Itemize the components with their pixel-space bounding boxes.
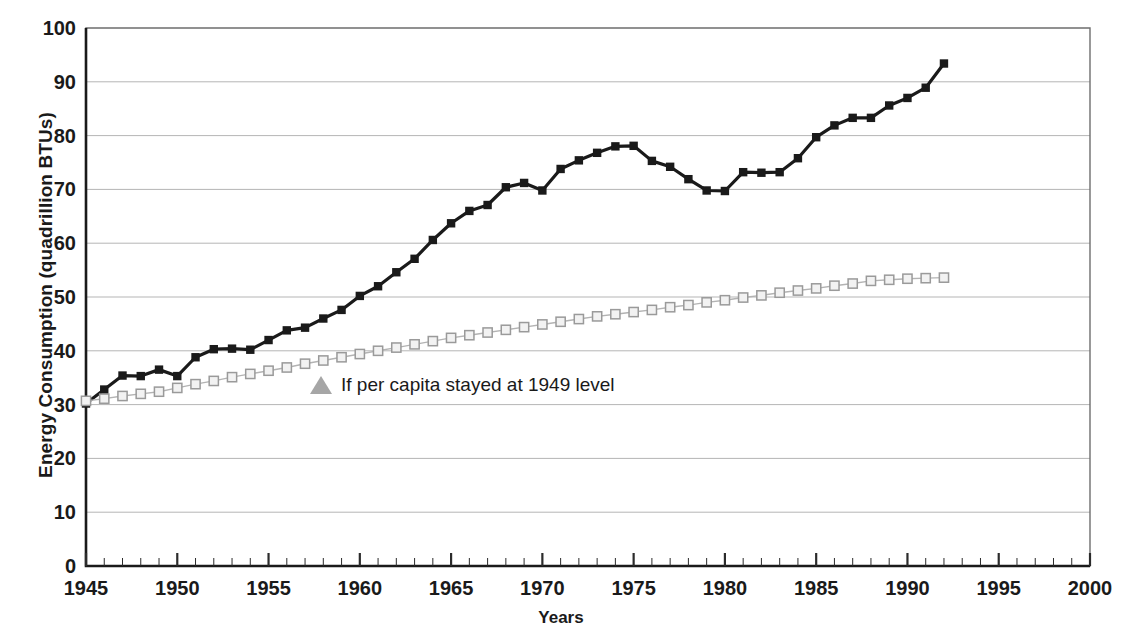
x-tick-label: 1970 xyxy=(497,578,587,598)
data-point-marker xyxy=(556,317,565,326)
data-point-marker xyxy=(428,337,437,346)
data-point-marker xyxy=(227,373,236,382)
y-tick-label: 40 xyxy=(6,341,76,361)
data-point-marker xyxy=(228,344,236,352)
data-point-marker xyxy=(830,121,838,129)
data-point-marker xyxy=(940,59,948,67)
x-tick-label: 1985 xyxy=(771,578,861,598)
data-point-marker xyxy=(136,389,145,398)
data-point-marker xyxy=(410,255,418,263)
x-tick-label: 1990 xyxy=(862,578,952,598)
x-tick-label: 2000 xyxy=(1045,578,1122,598)
data-point-marker xyxy=(848,279,857,288)
data-point-marker xyxy=(775,288,784,297)
data-point-marker xyxy=(593,149,601,157)
data-point-marker xyxy=(264,336,272,344)
data-point-marker xyxy=(793,286,802,295)
data-point-marker xyxy=(720,296,729,305)
data-point-marker xyxy=(173,372,181,380)
data-point-marker xyxy=(757,169,765,177)
data-point-marker xyxy=(574,314,583,323)
data-point-marker xyxy=(246,369,255,378)
y-tick-label: 30 xyxy=(6,395,76,415)
data-point-marker xyxy=(373,346,382,355)
data-point-marker xyxy=(885,275,894,284)
data-point-marker xyxy=(447,219,455,227)
data-point-marker xyxy=(611,142,619,150)
data-point-marker xyxy=(556,165,564,173)
data-point-marker xyxy=(921,274,930,283)
data-point-marker xyxy=(137,372,145,380)
data-point-marker xyxy=(173,383,182,392)
data-point-marker xyxy=(374,282,382,290)
data-point-marker xyxy=(100,385,108,393)
x-tick-label: 1950 xyxy=(132,578,222,598)
data-point-marker xyxy=(191,353,199,361)
x-tick-label: 1975 xyxy=(589,578,679,598)
data-point-marker xyxy=(319,314,327,322)
data-point-marker xyxy=(684,300,693,309)
data-point-marker xyxy=(903,274,912,283)
data-point-marker xyxy=(356,292,364,300)
data-point-marker xyxy=(939,273,948,282)
data-point-marker xyxy=(246,346,254,354)
x-axis-title: Years xyxy=(0,608,1122,628)
data-point-marker xyxy=(465,207,473,215)
x-tick-label: 1945 xyxy=(41,578,131,598)
data-point-marker xyxy=(830,281,839,290)
data-point-marker xyxy=(684,175,692,183)
data-point-marker xyxy=(446,333,455,342)
data-point-marker xyxy=(282,363,291,372)
data-point-marker xyxy=(885,101,893,109)
data-point-marker xyxy=(501,325,510,334)
legend-label: If per capita stayed at 1949 level xyxy=(341,374,615,396)
data-point-marker xyxy=(100,394,109,403)
data-point-marker xyxy=(154,387,163,396)
chart-plot-area xyxy=(0,0,1122,644)
data-point-marker xyxy=(502,183,510,191)
data-point-marker xyxy=(647,305,656,314)
data-point-marker xyxy=(301,323,309,331)
x-tick-label: 1960 xyxy=(315,578,405,598)
data-point-marker xyxy=(483,328,492,337)
data-point-marker xyxy=(81,396,90,405)
y-tick-label: 80 xyxy=(6,126,76,146)
data-point-marker xyxy=(702,298,711,307)
data-point-marker xyxy=(593,312,602,321)
y-tick-label: 10 xyxy=(6,502,76,522)
chart-figure: Energy Consumption (quadrillion BTUs) Ye… xyxy=(0,0,1122,644)
y-tick-label: 70 xyxy=(6,179,76,199)
data-point-marker xyxy=(757,291,766,300)
data-point-marker xyxy=(866,276,875,285)
data-point-marker xyxy=(666,303,675,312)
data-point-marker xyxy=(118,371,126,379)
x-tick-label: 1980 xyxy=(680,578,770,598)
data-point-marker xyxy=(794,154,802,162)
legend-entry-per-capita: If per capita stayed at 1949 level xyxy=(310,374,615,396)
y-tick-label: 0 xyxy=(6,556,76,576)
data-point-marker xyxy=(629,307,638,316)
data-point-marker xyxy=(721,187,729,195)
y-tick-label: 90 xyxy=(6,72,76,92)
data-point-marker xyxy=(465,331,474,340)
data-point-marker xyxy=(520,179,528,187)
y-tick-label: 50 xyxy=(6,287,76,307)
data-point-marker xyxy=(739,293,748,302)
data-point-marker xyxy=(319,356,328,365)
x-tick-label: 1955 xyxy=(224,578,314,598)
data-point-marker xyxy=(648,157,656,165)
data-point-marker xyxy=(812,284,821,293)
data-point-marker xyxy=(702,186,710,194)
data-point-marker xyxy=(629,142,637,150)
data-point-marker xyxy=(739,168,747,176)
data-point-marker xyxy=(575,156,583,164)
y-tick-label: 100 xyxy=(6,18,76,38)
data-point-marker xyxy=(210,345,218,353)
data-point-marker xyxy=(392,268,400,276)
data-point-marker xyxy=(392,343,401,352)
data-point-marker xyxy=(611,310,620,319)
data-point-marker xyxy=(666,163,674,171)
data-point-marker xyxy=(520,323,529,332)
data-point-marker xyxy=(264,366,273,375)
data-point-marker xyxy=(538,320,547,329)
